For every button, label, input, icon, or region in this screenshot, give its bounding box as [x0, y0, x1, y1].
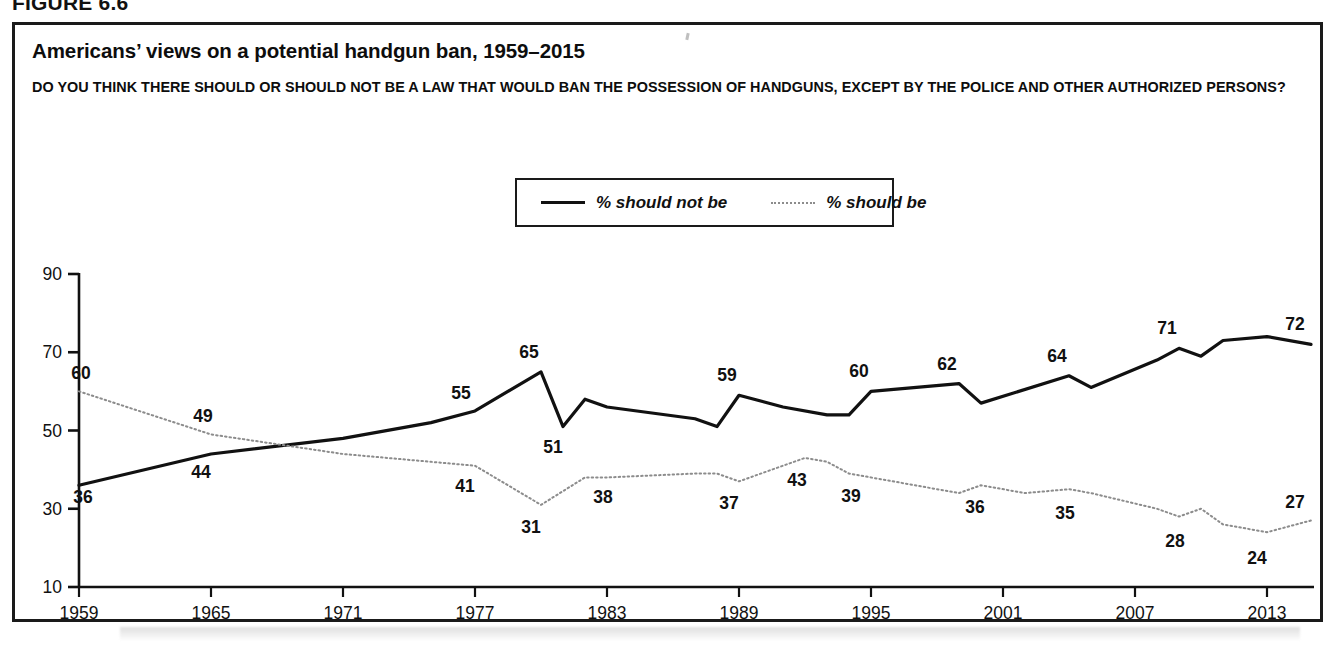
- x-axis-tick-label: 1965: [192, 603, 231, 619]
- legend-solid-line-icon: [541, 201, 585, 204]
- scan-smudge: [120, 627, 1300, 641]
- legend-item-should-not-be: % should not be: [541, 193, 727, 213]
- legend-label-should-not-be: % should not be: [596, 193, 727, 213]
- data-point-label: 39: [841, 486, 861, 506]
- figure-page: FIGURE 6.6 Americans’ views on a potenti…: [0, 0, 1344, 646]
- data-point-label: 41: [455, 476, 475, 496]
- x-axis-tick-label: 1977: [456, 603, 495, 619]
- data-point-label: 38: [593, 487, 613, 507]
- data-point-label: 59: [717, 365, 737, 385]
- x-axis-tick-label: 1959: [60, 603, 99, 619]
- line-chart-plot: 1030507090195919651971197719831989199520…: [15, 25, 1320, 619]
- data-point-label: 36: [965, 497, 985, 517]
- legend-item-should-be: % should be: [771, 193, 926, 213]
- y-axis-tick-label: 70: [43, 342, 63, 362]
- x-axis-tick-label: 1989: [720, 603, 759, 619]
- x-axis-tick-label: 1983: [588, 603, 627, 619]
- data-point-label: 27: [1285, 492, 1304, 512]
- y-axis-tick-label: 50: [43, 421, 63, 441]
- x-axis-tick-label: 2013: [1248, 603, 1287, 619]
- data-point-label: 43: [787, 470, 807, 490]
- x-axis-tick-label: 2001: [984, 603, 1023, 619]
- figure-label: FIGURE 6.6: [12, 0, 128, 15]
- data-point-label: 24: [1247, 548, 1267, 568]
- data-point-label: 71: [1157, 318, 1177, 338]
- data-point-label: 51: [543, 437, 563, 457]
- data-point-label: 64: [1047, 346, 1067, 366]
- y-axis-tick-label: 10: [43, 577, 63, 597]
- chart-legend: % should not be % should be: [515, 178, 894, 227]
- x-axis-tick-label: 1995: [852, 603, 891, 619]
- data-point-label: 72: [1285, 314, 1305, 334]
- x-axis-tick-label: 2007: [1116, 603, 1155, 619]
- data-point-label: 49: [193, 406, 213, 426]
- data-point-label: 60: [71, 363, 91, 383]
- data-point-label: 62: [937, 354, 957, 374]
- x-axis-tick-label: 1971: [324, 603, 363, 619]
- data-point-label: 44: [191, 462, 211, 482]
- y-axis-tick-label: 30: [43, 499, 63, 519]
- chart-panel: Americans’ views on a potential handgun …: [12, 22, 1323, 622]
- series-line-1: [79, 337, 1311, 486]
- data-point-label: 55: [451, 383, 471, 403]
- legend-label-should-be: % should be: [826, 193, 926, 213]
- data-point-label: 65: [519, 342, 539, 362]
- data-point-label: 60: [849, 361, 869, 381]
- data-point-label: 37: [719, 493, 738, 513]
- data-point-label: 31: [521, 517, 541, 537]
- data-point-label: 35: [1055, 503, 1075, 523]
- data-point-label: 28: [1165, 531, 1185, 551]
- y-axis-tick-label: 90: [43, 264, 63, 284]
- series-line-2: [79, 391, 1311, 532]
- data-point-label: 36: [73, 487, 93, 507]
- legend-dotted-line-icon: [771, 202, 815, 204]
